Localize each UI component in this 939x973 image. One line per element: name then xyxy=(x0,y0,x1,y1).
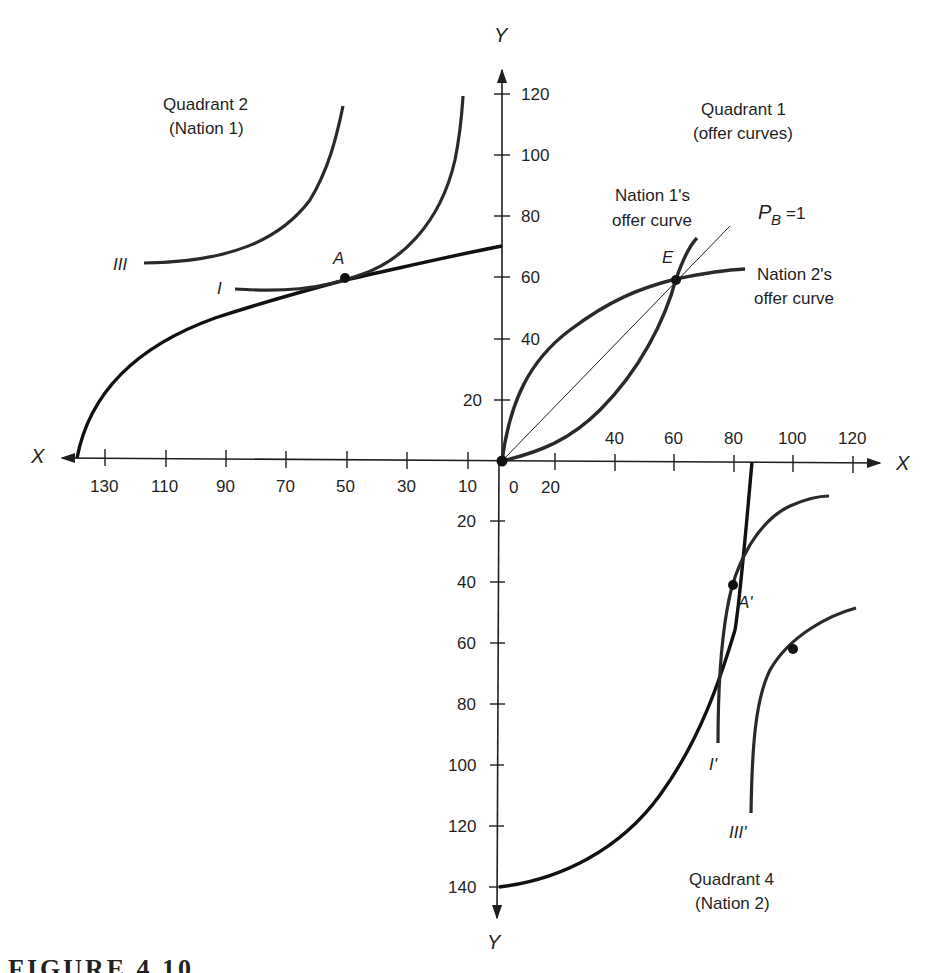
y-tick-label: 60 xyxy=(457,634,476,653)
svg-text:=1: =1 xyxy=(786,204,805,223)
point-A-prime-marker xyxy=(728,580,738,590)
x-tick-label: 90 xyxy=(216,477,235,496)
x-tick-label: 120 xyxy=(838,429,866,448)
y-tick-label: 120 xyxy=(448,817,476,836)
y-tick-label: 60 xyxy=(521,268,540,287)
price-line-label: P B =1 xyxy=(758,201,805,228)
nation1-trade-curve xyxy=(77,246,502,458)
y-tick-label: 120 xyxy=(521,85,549,104)
nation2-trade-curve xyxy=(499,462,752,887)
y-tick-label: 100 xyxy=(448,756,476,775)
nation2-offer-label-line1: Nation 2's xyxy=(757,265,832,284)
x-tick-label: 70 xyxy=(276,477,295,496)
y-tick-label: 40 xyxy=(457,573,476,592)
x-tick-label: 60 xyxy=(664,429,683,448)
y-axis-label-top: Y xyxy=(494,24,509,46)
x-tick-label: 130 xyxy=(90,477,118,496)
y-tick-label: 80 xyxy=(521,207,540,226)
x-tick-label: 50 xyxy=(336,477,355,496)
point-E-label: E xyxy=(662,248,674,267)
indifference-curve-I-prime xyxy=(718,496,829,743)
indifference-curve-III-prime-label: III' xyxy=(729,823,747,842)
point-E-marker xyxy=(671,275,681,285)
nation2-offer-label-line2: offer curve xyxy=(754,289,834,308)
x-tick-label: 0 xyxy=(509,478,518,497)
quadrant-2-title: Quadrant 2 xyxy=(163,95,248,114)
indifference-curve-I-label: I xyxy=(217,279,222,298)
x-axis-label-left: X xyxy=(30,445,45,467)
indifference-curve-III-prime xyxy=(751,608,856,813)
y-tick-label: 20 xyxy=(463,391,482,410)
y-axis-lower xyxy=(497,461,499,918)
svg-text:B: B xyxy=(771,211,781,228)
nation1-offer-label-line1: Nation 1's xyxy=(615,186,690,205)
y-tick-label: 40 xyxy=(521,330,540,349)
x-tick-label: 40 xyxy=(605,429,624,448)
nation1-offer-label-line2: offer curve xyxy=(612,211,692,230)
x-tick-label: 20 xyxy=(541,478,560,497)
x-tick-label: 80 xyxy=(724,429,743,448)
y-tick-label: 80 xyxy=(457,695,476,714)
y-tick-label: 140 xyxy=(448,878,476,897)
x-tick-label: 30 xyxy=(397,477,416,496)
quadrant-1-title: Quadrant 1 xyxy=(701,100,786,119)
quadrant-4-subtitle: (Nation 2) xyxy=(695,894,770,913)
point-A-label: A xyxy=(332,249,344,268)
svg-text:P: P xyxy=(758,201,772,223)
quadrant-4-title: Quadrant 4 xyxy=(689,870,774,889)
indifference-III-prime-marker xyxy=(788,644,798,654)
quadrant-2-subtitle: (Nation 1) xyxy=(169,119,244,138)
y-axis-label-bottom: Y xyxy=(487,931,502,953)
x-tick-label: 100 xyxy=(778,429,806,448)
point-A-marker xyxy=(340,273,350,283)
origin-marker xyxy=(497,456,508,467)
indifference-curve-I-prime-label: I' xyxy=(709,755,718,774)
indifference-curve-III-label: III xyxy=(113,255,127,274)
quadrant-1-subtitle: (offer curves) xyxy=(693,124,793,143)
four-quadrant-diagram: Y Y X X 120 100 80 60 40 20 20 40 60 80 … xyxy=(0,0,939,973)
x-axis-label-right: X xyxy=(895,452,910,474)
x-axis xyxy=(62,458,880,463)
x-tick-label: 110 xyxy=(151,477,178,496)
y-tick-label: 100 xyxy=(521,146,549,165)
x-tick-label: 10 xyxy=(458,477,477,496)
y-tick-label: 20 xyxy=(457,512,476,531)
figure-caption: FIGURE 4.10 xyxy=(8,956,194,973)
point-A-prime-label: A' xyxy=(737,593,753,612)
